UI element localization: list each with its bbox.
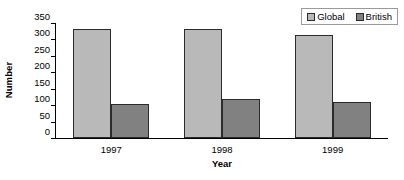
y-axis-tick-mark — [51, 89, 55, 90]
bar-british-1997 — [111, 104, 149, 139]
y-axis-tick-mark — [51, 105, 55, 106]
chart-legend: GlobalBritish — [301, 8, 398, 25]
y-axis-tick-label: 0 — [22, 127, 50, 137]
y-axis-tick-label: 50 — [22, 111, 50, 121]
plot-area — [56, 23, 388, 138]
y-axis-tick-label: 150 — [22, 78, 50, 88]
bar-group — [295, 23, 371, 138]
y-axis-tick-mark — [51, 122, 55, 123]
legend-label: British — [366, 12, 392, 22]
legend-swatch-icon — [307, 13, 315, 21]
x-axis-tick-labels: 199719981999 — [56, 144, 388, 158]
y-axis-tick-label: 350 — [22, 12, 50, 22]
legend-entry-british: British — [356, 12, 392, 22]
y-axis-tick-label: 250 — [22, 45, 50, 55]
y-axis-tick-label: 100 — [22, 94, 50, 104]
bar-chart: Number 050100150200250300350 19971998199… — [0, 0, 404, 180]
bar-global-1999 — [295, 35, 333, 138]
y-axis-tick-mark — [51, 138, 55, 139]
y-axis-tick-mark — [51, 39, 55, 40]
x-axis-tick-label: 1997 — [71, 144, 151, 156]
x-axis-line — [55, 138, 388, 139]
y-axis-title: Number — [2, 38, 16, 122]
x-axis-tick-label: 1998 — [182, 144, 262, 156]
x-axis-title: Year — [56, 158, 388, 170]
bar-group — [73, 23, 149, 138]
bar-british-1999 — [333, 102, 371, 138]
y-axis-tick-mark — [51, 56, 55, 57]
bar-british-1998 — [222, 99, 260, 138]
bar-global-1997 — [73, 29, 111, 138]
y-axis-tick-label: 300 — [22, 28, 50, 38]
legend-swatch-icon — [356, 13, 364, 21]
y-axis-tick-mark — [51, 72, 55, 73]
legend-entry-global: Global — [307, 12, 344, 22]
y-axis-tick-label: 200 — [22, 61, 50, 71]
y-axis-tick-labels: 050100150200250300350 — [22, 17, 50, 143]
y-axis-tick-mark — [51, 23, 55, 24]
bar-global-1998 — [184, 29, 222, 138]
legend-label: Global — [317, 12, 344, 22]
bar-group — [184, 23, 260, 138]
x-axis-tick-label: 1999 — [293, 144, 373, 156]
